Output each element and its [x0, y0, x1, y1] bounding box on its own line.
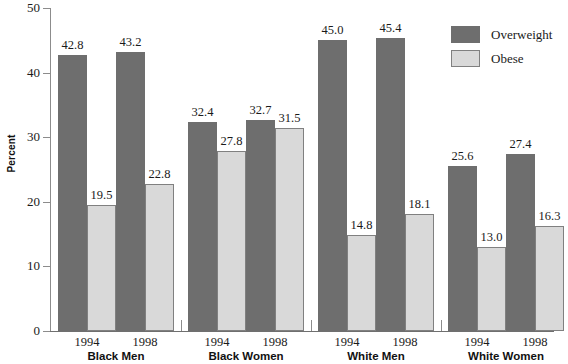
x-axis-group-separator: [181, 320, 182, 331]
bar-group-bars: 42.819.543.222.8: [58, 0, 174, 331]
bar-value-label: 22.8: [149, 168, 171, 181]
legend-item[interactable]: Overweight: [451, 26, 552, 43]
bar-group-bars: 45.014.845.418.1: [318, 0, 434, 331]
bar-obese-1994[interactable]: 27.8: [217, 151, 246, 331]
legend-item[interactable]: Obese: [451, 50, 552, 67]
legend-swatch-obese: [451, 50, 480, 67]
x-axis-group-separator: [311, 320, 312, 331]
legend-label: Overweight: [491, 28, 552, 41]
x-axis-year-label: 1994: [317, 336, 377, 349]
bar-overweight-1994[interactable]: 25.6: [448, 166, 477, 331]
y-axis-tick-label: 40: [0, 66, 40, 79]
bar-obese-1994[interactable]: 19.5: [87, 205, 116, 331]
bar-value-label: 32.7: [250, 104, 272, 117]
bar-obese-1998[interactable]: 18.1: [405, 214, 434, 331]
x-axis-year-label: 1994: [447, 336, 507, 349]
bar-overweight-1994[interactable]: 45.0: [318, 40, 347, 331]
bar-obese-1994[interactable]: 14.8: [347, 235, 376, 331]
bar-overweight-1998[interactable]: 43.2: [116, 52, 145, 331]
x-axis-group-label: White Women: [426, 351, 568, 363]
x-axis-year-label: 1994: [57, 336, 117, 349]
x-axis-year-label: 1998: [245, 336, 305, 349]
x-axis-year-label: 1994: [187, 336, 247, 349]
bar-group: 45.014.845.418.1: [318, 0, 434, 331]
bar-value-label: 42.8: [62, 39, 84, 52]
bar-obese-1998[interactable]: 22.8: [145, 184, 174, 331]
bar-group: 42.819.543.222.8: [58, 0, 174, 331]
x-axis-year-label: 1998: [505, 336, 565, 349]
bar-overweight-1998[interactable]: 32.7: [246, 120, 275, 331]
y-axis-tick-label: 0: [0, 324, 40, 337]
bar-value-label: 14.8: [351, 219, 373, 232]
bar-overweight-1994[interactable]: 42.8: [58, 55, 87, 331]
bar-value-label: 19.5: [91, 189, 113, 202]
bar-overweight-1994[interactable]: 32.4: [188, 122, 217, 331]
bar-value-label: 31.5: [279, 112, 301, 125]
bar-group: 32.427.832.731.5: [188, 0, 304, 331]
bar-value-label: 27.4: [510, 138, 532, 151]
y-axis-tick-label: 50: [0, 1, 40, 14]
y-axis-tick-label: 20: [0, 195, 40, 208]
bar-overweight-1998[interactable]: 45.4: [376, 38, 405, 331]
x-axis-year-label: 1998: [375, 336, 435, 349]
y-axis-tick-label: 10: [0, 259, 40, 272]
bar-obese-1998[interactable]: 31.5: [275, 128, 304, 331]
legend-label: Obese: [491, 52, 524, 65]
bar-group-bars: 32.427.832.731.5: [188, 0, 304, 331]
bar-value-label: 45.0: [322, 24, 344, 37]
legend: OverweightObese: [451, 26, 552, 74]
bar-value-label: 27.8: [221, 135, 243, 148]
bar-obese-1998[interactable]: 16.3: [535, 226, 564, 331]
bar-value-label: 43.2: [120, 36, 142, 49]
y-axis-tick-label: 30: [0, 130, 40, 143]
x-axis-group-separator: [441, 320, 442, 331]
bar-value-label: 13.0: [481, 231, 503, 244]
x-axis-year-label: 1998: [115, 336, 175, 349]
bar-overweight-1998[interactable]: 27.4: [506, 154, 535, 331]
bar-value-label: 16.3: [539, 210, 561, 223]
legend-swatch-overweight: [451, 26, 480, 43]
bar-value-label: 32.4: [192, 106, 214, 119]
bar-value-label: 25.6: [452, 150, 474, 163]
bar-obese-1994[interactable]: 13.0: [477, 247, 506, 331]
bar-value-label: 45.4: [380, 22, 402, 35]
y-axis-title: Percent: [6, 119, 17, 189]
x-axis-line: [50, 331, 554, 332]
bar-value-label: 18.1: [409, 198, 431, 211]
